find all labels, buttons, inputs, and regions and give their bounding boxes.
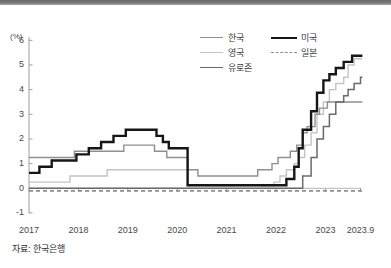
- series-line-uk: [29, 59, 362, 186]
- y-tick-label: 0: [0, 183, 24, 194]
- y-tick-label: 4: [0, 84, 24, 95]
- legend-line-us: [271, 37, 297, 39]
- y-tick-label: -1: [0, 207, 24, 218]
- x-tick-label: 2021: [205, 225, 249, 236]
- y-tick-label: 2: [0, 133, 24, 144]
- legend-label-uk: 영국: [228, 48, 244, 59]
- y-tick-label: 5: [0, 59, 24, 70]
- x-tick-label: 2022: [254, 225, 298, 236]
- x-tick-label: 2019: [106, 225, 150, 236]
- x-tick-label-end: 2023.9: [338, 225, 382, 236]
- chart-svg: [0, 0, 391, 240]
- x-tick-label: 2020: [155, 225, 199, 236]
- legend-line-uk: [200, 52, 223, 53]
- series-line-korea: [29, 102, 362, 176]
- legend-label-korea: 한국: [228, 33, 244, 44]
- x-tick-label: 2017: [7, 225, 51, 236]
- x-tick-label: 2018: [56, 225, 100, 236]
- legend-line-eurozone: [200, 67, 223, 68]
- source-note: 자료: 한국은행: [12, 242, 65, 255]
- y-tick-label: 6: [0, 35, 24, 46]
- y-tick-label: 1: [0, 158, 24, 169]
- policy-rate-figure: (%) 6543210-1 20172018201920202021202220…: [0, 0, 391, 268]
- legend-line-korea: [200, 37, 223, 38]
- y-tick-label: 3: [0, 109, 24, 120]
- legend-label-us: 미국: [301, 33, 317, 44]
- legend-label-japan: 일본: [301, 48, 317, 59]
- series-line-us: [29, 56, 362, 186]
- legend-line-japan: [271, 52, 297, 53]
- legend-label-eurozone: 유로존: [228, 63, 252, 74]
